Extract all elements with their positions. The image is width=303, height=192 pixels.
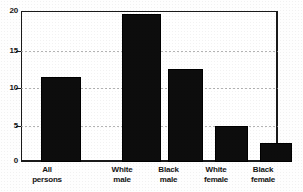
x-axis-label-black-female: Blackfemale [238,165,288,184]
x-axis-label-black-male: Blackmale [146,165,191,184]
y-axis-label-0: 0 [0,157,18,165]
bar-chart: 20 15 10 5 0 Allpersons Whitemale Blackm… [0,0,303,192]
x-label-line-2: male [113,175,130,184]
x-label-line-1: All [42,165,52,174]
x-axis-label-white-male: Whitemale [97,165,147,184]
bar-black-male [168,69,203,162]
bar-white-female [215,126,248,162]
bar-all-persons [41,77,81,162]
plot-area [21,11,278,162]
x-axis-label-white-female: Whitefemale [191,165,241,184]
x-label-line-2: female [204,175,228,184]
x-label-line-1: Black [158,165,178,174]
x-label-line-1: White [112,165,133,174]
x-label-line-2: female [251,175,275,184]
y-axis-label-20: 20 [0,7,18,15]
bar-black-female [260,143,292,162]
x-label-line-2: male [160,175,177,184]
bar-white-male [122,14,161,162]
x-label-line-1: Black [253,165,273,174]
x-label-line-2: persons [32,175,62,184]
x-axis-label-all-persons: Allpersons [17,165,77,184]
x-label-line-1: White [206,165,227,174]
